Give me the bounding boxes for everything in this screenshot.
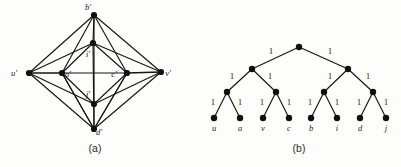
tree-leaf-label-j: j	[384, 123, 388, 133]
tree-edge-n-rl-leaf-b	[311, 92, 324, 118]
tree-node-n-ll	[224, 89, 230, 95]
tree-edge-weight-n-r-n-rr: 1	[366, 71, 371, 81]
graph-edge-up-jp	[29, 73, 94, 104]
tree-edge-weight-root-n-r: 1	[328, 46, 333, 56]
graph-vertex-label-cp: c'	[111, 69, 117, 79]
tree-edge-root-n-r	[299, 47, 348, 69]
panel-a-label-group: b'i'u'a'c'v'j'd'	[11, 2, 171, 137]
tree-edge-weight-root-n-l: 1	[269, 46, 274, 56]
panel-a-edge-group	[29, 15, 161, 129]
tree-node-root	[296, 44, 302, 50]
graph-vertex-bp	[91, 12, 97, 18]
tree-node-n-r	[345, 66, 351, 72]
tree-node-leaf-d	[357, 115, 363, 121]
graph-edge-bp-cp	[94, 15, 127, 73]
tree-leaf-label-i: i	[336, 123, 339, 133]
graph-edge-vp-bp	[94, 15, 161, 72]
tree-leaf-label-a: a	[238, 123, 242, 133]
graph-vertex-ip	[90, 40, 96, 46]
caption-group: (a)(b)	[89, 142, 306, 154]
panel-b-weight-group: 11111111111111	[211, 46, 389, 107]
graph-edge-up-bp	[29, 15, 94, 73]
graph-edge-bp-ap	[62, 15, 94, 73]
tree-edge-weight-n-rl-leaf-b: 1	[308, 97, 313, 107]
tree-node-n-rr	[370, 89, 376, 95]
graph-vertex-up	[26, 70, 32, 76]
figure-container: b'i'u'a'c'v'j'd' 11111111111111 uavcbidj…	[0, 0, 401, 167]
panel-b-leaf-label-group: uavcbidj	[212, 123, 388, 133]
graph-edge-cp-vp	[127, 72, 161, 73]
panel-caption-a: (a)	[89, 142, 102, 154]
tree-edge-weight-n-rr-leaf-d: 1	[357, 97, 362, 107]
panel-b-edge-group	[214, 47, 386, 118]
panel-caption-b: (b)	[293, 142, 306, 154]
tree-edge-n-rr-leaf-d	[360, 92, 373, 118]
tree-node-n-l	[249, 66, 255, 72]
graph-edge-vp-ip	[93, 43, 161, 72]
tree-edge-weight-n-lr-leaf-c: 1	[287, 97, 292, 107]
graph-vertex-jp	[91, 101, 97, 107]
graph-edge-up-dp	[29, 73, 94, 129]
graph-edge-up-ip	[29, 43, 93, 73]
graph-edge-ap-dp	[62, 73, 94, 129]
tree-node-leaf-j	[383, 115, 389, 121]
tree-node-leaf-a	[237, 115, 243, 121]
tree-edge-weight-n-lr-leaf-v: 1	[260, 97, 265, 107]
tree-edge-weight-n-ll-leaf-a: 1	[238, 97, 243, 107]
tree-edge-weight-n-rr-leaf-j: 1	[384, 97, 389, 107]
graph-vertex-label-vp: v'	[165, 68, 171, 78]
tree-node-leaf-i	[334, 115, 340, 121]
tree-edge-n-lr-leaf-v	[263, 92, 276, 118]
graph-edge-vp-jp	[94, 72, 161, 104]
tree-edge-n-l-n-lr	[252, 69, 276, 92]
tree-edge-weight-n-r-n-rl: 1	[328, 71, 333, 81]
tree-node-leaf-u	[211, 115, 217, 121]
tree-leaf-label-b: b	[309, 123, 313, 133]
graph-edge-ip-cp	[93, 43, 127, 73]
tree-node-leaf-v	[260, 115, 266, 121]
tree-edge-weight-n-l-n-ll: 1	[230, 71, 235, 81]
graph-vertex-vp	[158, 69, 164, 75]
tree-leaf-label-v: v	[261, 123, 265, 133]
graph-vertex-label-up: u'	[11, 68, 17, 78]
tree-node-n-rl	[321, 89, 327, 95]
graph-vertex-label-jp: j'	[85, 89, 90, 99]
tree-node-n-lr	[273, 89, 279, 95]
tree-edge-weight-n-rl-leaf-i: 1	[335, 97, 340, 107]
figure-svg: b'i'u'a'c'v'j'd' 11111111111111 uavcbidj…	[0, 0, 401, 167]
graph-vertex-label-ip: i'	[86, 49, 90, 59]
graph-vertex-label-ap: a'	[65, 69, 71, 79]
graph-vertex-label-dp: d'	[96, 127, 102, 137]
graph-vertex-label-bp: b'	[85, 2, 91, 12]
tree-node-leaf-c	[286, 115, 292, 121]
tree-edge-weight-n-ll-leaf-u: 1	[211, 97, 216, 107]
tree-leaf-label-c: c	[287, 123, 291, 133]
tree-edge-n-ll-leaf-u	[214, 92, 227, 118]
graph-edge-vp-dp	[94, 72, 161, 129]
tree-leaf-label-u: u	[212, 123, 216, 133]
tree-edge-root-n-l	[252, 47, 299, 69]
tree-edge-weight-n-l-n-lr: 1	[268, 71, 273, 81]
tree-node-leaf-b	[308, 115, 314, 121]
tree-leaf-label-d: d	[358, 123, 363, 133]
graph-vertex-cp	[124, 70, 130, 76]
